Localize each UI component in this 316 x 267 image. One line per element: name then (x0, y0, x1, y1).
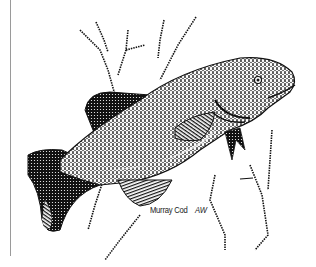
pelvic-fin (225, 128, 245, 160)
species-name: Murray Cod (150, 205, 187, 215)
caption: Murray CodAW (150, 205, 207, 215)
murray-cod-illustration (0, 0, 316, 267)
anal-fin (118, 180, 172, 206)
artist-initials: AW (195, 205, 207, 215)
